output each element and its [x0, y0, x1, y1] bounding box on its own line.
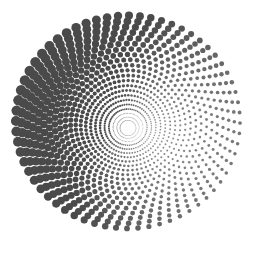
halftone-dot — [227, 119, 230, 122]
halftone-dot — [200, 96, 203, 99]
halftone-dot — [182, 161, 185, 164]
halftone-dot — [236, 100, 240, 104]
halftone-dot — [148, 72, 152, 76]
halftone-dot — [124, 41, 130, 47]
halftone-dot — [184, 166, 187, 169]
halftone-dot — [118, 52, 123, 57]
halftone-dot — [94, 142, 97, 145]
halftone-dot — [150, 129, 151, 130]
halftone-dot — [126, 173, 129, 176]
halftone-dot — [238, 111, 242, 115]
halftone-dot — [127, 201, 131, 205]
halftone-dot — [143, 127, 144, 128]
halftone-dot — [121, 57, 126, 62]
halftone-dot — [147, 170, 150, 173]
halftone-dot — [120, 130, 121, 131]
halftone-dot — [119, 143, 121, 145]
halftone-dot — [193, 83, 197, 87]
halftone-dot — [106, 108, 109, 111]
halftone-dot — [95, 116, 98, 119]
halftone-dot — [85, 154, 89, 158]
halftone-dot — [128, 148, 130, 150]
halftone-dot — [129, 141, 130, 142]
halftone-dot — [123, 134, 124, 135]
halftone-dot — [169, 146, 171, 148]
halftone-dot — [125, 52, 130, 57]
halftone-dot — [195, 125, 198, 128]
halftone-dot — [166, 64, 170, 68]
halftone-dot — [117, 106, 119, 108]
halftone-dot — [133, 109, 135, 111]
halftone-dot — [125, 135, 126, 136]
halftone-dot — [66, 178, 72, 184]
halftone-dot — [106, 77, 110, 81]
halftone-dot — [118, 95, 121, 98]
halftone-dot — [137, 151, 139, 153]
halftone-dot — [157, 147, 159, 149]
halftone-dot — [30, 176, 39, 185]
halftone-dot — [139, 118, 140, 119]
halftone-dot — [145, 151, 147, 153]
halftone-dot — [89, 105, 93, 109]
halftone-dot — [178, 134, 180, 136]
halftone-dot — [142, 138, 143, 139]
halftone-dot — [133, 118, 134, 119]
halftone-dot — [130, 120, 131, 121]
halftone-dot — [76, 86, 82, 92]
halftone-dot — [117, 130, 118, 131]
halftone-dot — [119, 139, 120, 140]
halftone-dot — [159, 99, 161, 101]
halftone-dot — [90, 165, 94, 169]
halftone-dot — [146, 224, 151, 229]
halftone-dot — [185, 144, 187, 146]
halftone-dot — [175, 105, 177, 107]
halftone-dot — [203, 140, 206, 143]
halftone-dot — [114, 12, 122, 20]
halftone-dot — [161, 184, 164, 187]
halftone-dot — [113, 126, 114, 127]
halftone-dot — [127, 178, 130, 181]
halftone-dot — [118, 142, 120, 144]
halftone-dot — [192, 41, 198, 47]
halftone-dot — [167, 186, 170, 189]
halftone-dot — [74, 171, 79, 176]
halftone-dot — [136, 120, 137, 121]
halftone-dot — [58, 159, 64, 165]
halftone-dot — [134, 132, 135, 133]
halftone-dot — [129, 89, 132, 92]
halftone-dot — [186, 104, 189, 107]
halftone-dot — [159, 169, 161, 171]
halftone-dot — [188, 110, 191, 113]
halftone-dot — [137, 122, 138, 123]
halftone-dot — [122, 169, 125, 172]
halftone-dot — [106, 143, 108, 145]
halftone-dot — [169, 124, 171, 126]
halftone-dot — [117, 168, 120, 171]
halftone-dot — [121, 132, 122, 133]
halftone-dot — [16, 85, 26, 95]
halftone-dot — [74, 113, 79, 118]
halftone-dot — [76, 166, 81, 171]
halftone-dot — [147, 160, 149, 162]
halftone-dot — [184, 71, 188, 75]
halftone-dot — [126, 84, 129, 87]
halftone-dot — [153, 192, 156, 195]
halftone-dot — [84, 57, 91, 64]
halftone-dot — [197, 165, 200, 168]
halftone-dot — [164, 89, 167, 92]
halftone-dot — [129, 138, 130, 139]
halftone-dot — [149, 134, 150, 135]
halftone-dot — [174, 188, 177, 191]
halftone-dot — [208, 65, 213, 70]
halftone-dot — [99, 119, 102, 122]
halftone-dot — [125, 68, 129, 72]
halftone-dot — [119, 147, 121, 149]
halftone-dot — [159, 132, 161, 134]
halftone-dot — [210, 113, 213, 116]
halftone-dot — [209, 184, 213, 188]
halftone-dot — [192, 193, 196, 197]
halftone-dot — [92, 139, 95, 142]
halftone-dot — [211, 172, 214, 175]
halftone-dot — [65, 106, 71, 112]
halftone-dot — [127, 94, 130, 97]
